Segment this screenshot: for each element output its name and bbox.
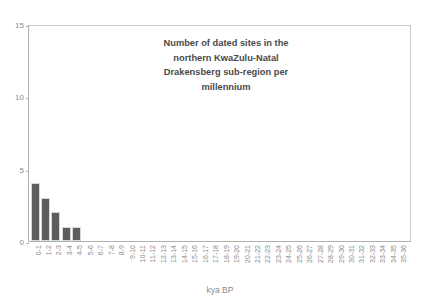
bar [62,227,71,241]
x-axis-tick-label: 1-2 [45,245,52,255]
y-axis-tick-label: 0 [20,239,24,247]
x-axis-tick-label: 29-30 [338,245,345,263]
bar-slot [50,26,60,241]
x-axis-tick-label: 8-9 [118,245,125,255]
x-axis-tick-label: 22-23 [264,245,271,263]
x-axis-tick-label: 11-12 [149,245,156,262]
bar-slot [113,26,123,241]
chart-title-line-1: Number of dated sites in the [128,36,324,51]
x-axis-tick-label: 0-1 [35,245,42,255]
x-axis-tick-label: 9-10 [129,245,136,259]
y-axis-tick-mark [26,243,29,244]
x-axis-tick-label: 33-34 [379,245,386,263]
x-axis-tick-label: 24-25 [285,245,292,263]
bar-slot [363,26,373,241]
bar-slot [29,26,39,241]
x-axis-tick-label: 25-26 [296,245,303,263]
bar-slot [60,26,70,241]
y-axis-tick-label: 15 [15,22,24,30]
chart-title: Number of dated sites in the northern Kw… [128,36,324,94]
bar-slot [343,26,353,241]
x-axis-tick-label: 5-6 [87,245,94,255]
x-axis-tick-label: 19-20 [233,245,240,263]
x-axis-tick-label: 18-19 [223,245,230,263]
x-axis-tick-label: 27-28 [317,245,324,263]
bar [31,183,40,241]
x-axis-tick-label: 20-21 [244,245,251,263]
y-axis-tick-label: 5 [20,167,24,175]
bar-chart: 051015 0-11-22-33-44-55-66-77-88-99-1010… [0,0,440,301]
x-axis-tick-label: 7-8 [108,245,115,255]
x-axis-tick-label: 30-31 [348,245,355,263]
bar-slot [102,26,112,241]
x-axis-tick-label: 10-11 [139,245,146,262]
x-axis-tick-label: 26-27 [306,245,313,263]
chart-title-line-4: millennium [128,80,324,95]
bar-slot [395,26,405,241]
x-axis-tick-label: 16-17 [202,245,209,263]
x-axis-tick-label: 12-13 [160,245,167,263]
x-axis-tick-label: 13-14 [170,245,177,263]
x-axis-tick-label: 15-16 [191,245,198,263]
bar [51,212,60,241]
x-axis-tick-label: 23-24 [275,245,282,263]
x-axis-tick-label: 6-7 [97,245,104,255]
x-axis-tick-label: 31-32 [358,245,365,263]
chart-title-line-3: Drakensberg sub-region per [128,65,324,80]
x-axis-tick-label: 32-33 [369,245,376,263]
bar [72,227,81,241]
x-axis-tick-label: 21-22 [254,245,261,263]
bar-slot [92,26,102,241]
bar-slot [39,26,49,241]
bar-slot [81,26,91,241]
x-axis-tick-label: 2-3 [55,245,62,255]
x-axis-label: kya BP [0,285,440,295]
x-axis-tick-label: 28-29 [327,245,334,263]
x-axis-tick-label: 14-15 [181,245,188,263]
bar-slot [332,26,342,241]
bar-slot [353,26,363,241]
x-axis-tick-label: 34-35 [390,245,397,263]
x-axis-tick-label: 3-4 [66,245,73,255]
y-axis-tick-label: 10 [15,94,24,102]
bar-slot [374,26,384,241]
chart-title-line-2: northern KwaZulu-Natal [128,51,324,66]
x-axis-tick-label: 17-18 [212,245,219,263]
x-axis-tick-label: 35-36 [400,245,407,263]
bar-slot [71,26,81,241]
bar [41,198,50,241]
x-axis-tick-label: 4-5 [76,245,83,255]
bar-slot [384,26,394,241]
